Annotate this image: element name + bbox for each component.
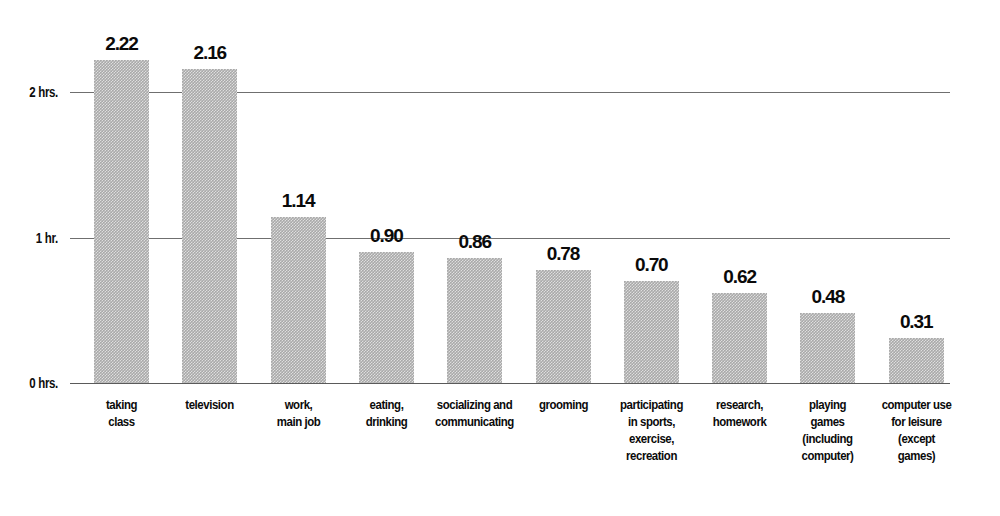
x-axis-category-label-line: class [79, 413, 164, 430]
bar [624, 281, 679, 383]
x-axis-category-label-line: research, [697, 396, 782, 413]
x-axis-category-label: socializing andcommunicating [432, 396, 517, 430]
bar [800, 313, 855, 383]
x-axis-category-label-line: eating, [344, 396, 429, 413]
x-axis-category-label-line: (except [874, 430, 959, 447]
x-axis-category-label-line: playing [785, 396, 870, 413]
bar-value-label: 0.90 [345, 226, 428, 246]
x-axis-category-label: eating,drinking [344, 396, 429, 430]
x-axis-category-label-line: main job [255, 413, 340, 430]
bar [182, 69, 237, 383]
bar [271, 217, 326, 383]
bar [889, 338, 944, 383]
x-axis-category-label-line: exercise, [609, 430, 694, 447]
bar [94, 60, 149, 383]
x-axis-category-label-line: computer use [874, 396, 959, 413]
x-axis-category-label: participatingin sports,exercise,recreati… [609, 396, 694, 464]
x-axis-category-label-line: recreation [609, 447, 694, 464]
bar-value-label: 2.22 [80, 34, 163, 54]
x-axis-category-label-line: drinking [344, 413, 429, 430]
bar-value-label: 0.78 [522, 244, 605, 264]
bar-value-label: 0.31 [875, 312, 958, 332]
x-axis-category-label-line: homework [697, 413, 782, 430]
x-axis-category-label: work,main job [255, 396, 340, 430]
y-axis-tick-label: 0 hrs. [29, 375, 58, 391]
bar-value-label: 0.62 [698, 267, 781, 287]
x-axis-category-label: research,homework [697, 396, 782, 430]
y-axis-tick: 1 hr. [0, 230, 58, 246]
bar-value-label: 0.86 [433, 232, 516, 252]
x-axis-category-label-line: television [167, 396, 252, 413]
x-axis-category-label-line: communicating [432, 413, 517, 430]
x-axis-category-label-line: participating [609, 396, 694, 413]
y-gridline-0-hrs- [70, 383, 950, 384]
x-axis-category-label-line: in sports, [609, 413, 694, 430]
x-axis-category-label-line: socializing and [432, 396, 517, 413]
x-axis-category-label-line: grooming [520, 396, 605, 413]
y-axis-tick: 0 hrs. [0, 375, 58, 391]
x-axis-category-label-line: computer) [785, 447, 870, 464]
bar [536, 270, 591, 383]
x-axis-category-label: grooming [520, 396, 605, 413]
x-axis-category-label: computer usefor leisure(exceptgames) [874, 396, 959, 464]
bar-value-label: 0.48 [786, 287, 869, 307]
bar-value-label: 2.16 [168, 43, 251, 63]
x-axis-category-label: television [167, 396, 252, 413]
bar [447, 258, 502, 383]
x-axis-category-label-line: games [785, 413, 870, 430]
bar-value-label: 0.70 [610, 255, 693, 275]
x-axis-category-label-line: for leisure [874, 413, 959, 430]
x-axis-category-label-line: games) [874, 447, 959, 464]
x-axis-category-label: takingclass [79, 396, 164, 430]
plot-area: 0 hrs.1 hr.2 hrs.2.22takingclass2.16tele… [0, 0, 1000, 516]
x-axis-category-label-line: (including [785, 430, 870, 447]
y-axis-tick-label: 1 hr. [36, 230, 58, 246]
x-axis-category-label-line: taking [79, 396, 164, 413]
x-axis-category-label: playinggames(includingcomputer) [785, 396, 870, 464]
bar-value-label: 1.14 [257, 191, 340, 211]
bar [712, 293, 767, 383]
y-axis-tick-label: 2 hrs. [29, 84, 58, 100]
bar-chart: 0 hrs.1 hr.2 hrs.2.22takingclass2.16tele… [0, 0, 1000, 516]
x-axis-category-label-line: work, [255, 396, 340, 413]
bar [359, 252, 414, 383]
y-axis-tick: 2 hrs. [0, 84, 58, 100]
